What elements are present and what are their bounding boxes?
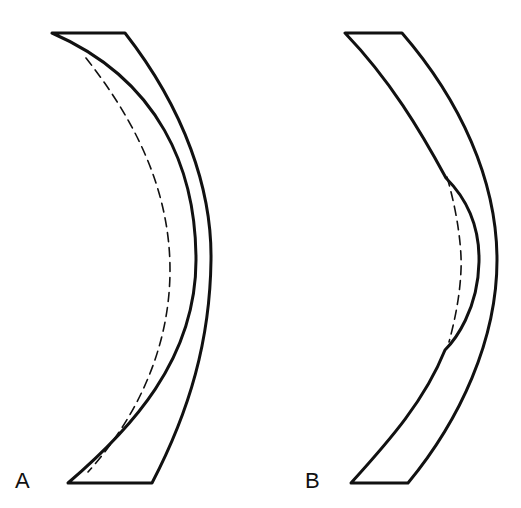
panel-a-label: A bbox=[15, 468, 30, 494]
panel-a-outline bbox=[52, 33, 211, 483]
panel-b-dashed-curve bbox=[447, 177, 461, 342]
panel-a bbox=[52, 33, 211, 483]
panel-b bbox=[345, 33, 497, 483]
panel-b-outline bbox=[345, 33, 497, 483]
panel-b-label: B bbox=[305, 468, 320, 494]
diagram-canvas bbox=[0, 0, 521, 508]
